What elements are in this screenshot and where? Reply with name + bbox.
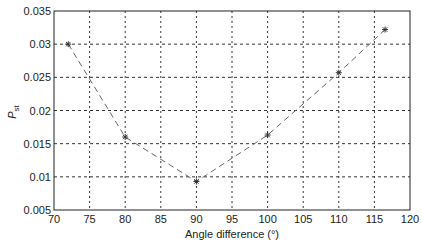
star-marker-icon [193,178,199,184]
x-tick-label: 95 [226,213,238,225]
x-tick-label: 120 [401,213,419,225]
y-tick-label: 0.015 [23,138,51,150]
line-chart: 707580859095100105110115120 0.0050.010.0… [0,0,422,245]
star-marker-icon [65,41,71,47]
x-tick-label: 105 [294,213,312,225]
y-axis-ticks: 0.0050.010.0150.020.0250.030.035 [23,5,51,216]
x-tick-label: 85 [155,213,167,225]
x-tick-label: 100 [258,213,276,225]
y-tick-label: 0.035 [23,5,51,17]
x-tick-label: 80 [119,213,131,225]
series-markers [65,27,388,185]
series-line [68,30,385,182]
x-tick-label: 75 [83,213,95,225]
y-tick-label: 0.005 [23,204,51,216]
star-marker-icon [336,70,342,76]
y-axis-label: Pst [6,104,21,118]
x-axis-ticks: 707580859095100105110115120 [48,213,419,225]
x-tick-label: 90 [190,213,202,225]
y-tick-label: 0.03 [30,38,51,50]
y-tick-label: 0.02 [30,105,51,117]
y-tick-label: 0.025 [23,71,51,83]
grid-lines [54,11,410,210]
star-marker-icon [265,132,271,138]
x-tick-label: 115 [366,213,384,225]
y-tick-label: 0.01 [30,171,51,183]
x-axis-label: Angle difference (°) [185,228,279,240]
star-marker-icon [382,27,388,33]
x-tick-label: 110 [330,213,348,225]
star-marker-icon [122,134,128,140]
